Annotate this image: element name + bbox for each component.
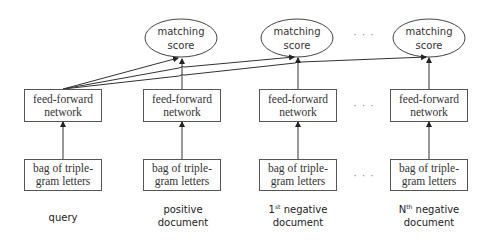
- input-label-line2: gram letters: [36, 175, 91, 188]
- ffn-box-negative-n: feed-forward network: [391, 90, 468, 122]
- ellipsis-input: · · ·: [354, 170, 375, 181]
- caption-positive-line1: positive: [163, 204, 202, 215]
- caption-ordinal: N: [399, 204, 406, 215]
- input-label-line1: bag of triple-: [152, 162, 212, 175]
- matching-score-negative-n: matching score: [393, 19, 465, 57]
- ffn-label-line1: feed-forward: [399, 93, 459, 105]
- caption-rest: negative: [280, 204, 327, 215]
- matching-score-negative-1: matching score: [261, 19, 333, 57]
- caption-negative-n-line2: document: [404, 217, 455, 228]
- input-label-line1: bag of triple-: [33, 162, 93, 175]
- caption-positive-line2: document: [158, 217, 209, 228]
- input-label-line2: gram letters: [271, 175, 326, 188]
- ffn-label-line1: feed-forward: [152, 93, 212, 105]
- caption-negative-1-line2: document: [273, 217, 324, 228]
- ffn-label-line2: network: [410, 106, 448, 118]
- edge-query-to-score-negative-1: [63, 57, 294, 89]
- caption-negative-1-line1: 1st negative: [269, 203, 328, 215]
- ffn-box-query: feed-forward network: [25, 90, 102, 122]
- ffn-label-line1: feed-forward: [33, 93, 93, 105]
- caption-negative-n-line1: Nth negative: [399, 203, 460, 215]
- dssm-architecture-diagram: matching score matching score matching s…: [0, 0, 490, 241]
- ellipsis-scores: · · ·: [354, 29, 375, 40]
- input-box-negative-n: bag of triple- gram letters: [391, 160, 468, 191]
- input-label-line1: bag of triple-: [268, 162, 328, 175]
- ffn-label-line2: network: [163, 106, 201, 118]
- ffn-label-line2: network: [279, 106, 317, 118]
- ffn-label-line1: feed-forward: [268, 93, 328, 105]
- ffn-label-line2: network: [44, 106, 82, 118]
- caption-rest: negative: [412, 204, 459, 215]
- ffn-box-positive: feed-forward network: [144, 90, 221, 122]
- ffn-box-negative-1: feed-forward network: [260, 90, 337, 122]
- input-box-query: bag of triple- gram letters: [25, 160, 102, 191]
- matching-score-positive: matching score: [145, 19, 217, 57]
- input-box-positive: bag of triple- gram letters: [144, 160, 221, 191]
- input-label-line1: bag of triple-: [399, 162, 459, 175]
- score-label-line2: score: [284, 40, 311, 51]
- input-box-negative-1: bag of triple- gram letters: [260, 160, 337, 191]
- input-label-line2: gram letters: [155, 175, 210, 188]
- score-label-line1: matching: [157, 26, 204, 37]
- caption-query: query: [49, 212, 78, 223]
- input-label-line2: gram letters: [402, 175, 457, 188]
- ellipsis-ffn: · · ·: [354, 100, 375, 111]
- score-label-line1: matching: [273, 26, 320, 37]
- score-label-line1: matching: [405, 26, 452, 37]
- score-label-line2: score: [168, 40, 195, 51]
- edge-query-to-score-positive: [63, 58, 178, 89]
- score-label-line2: score: [416, 40, 443, 51]
